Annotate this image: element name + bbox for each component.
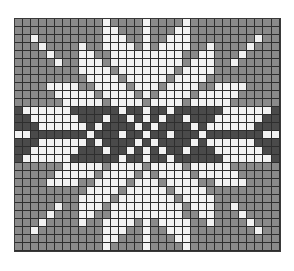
- chart-cell-background: [95, 219, 103, 227]
- chart-cell-background: [223, 187, 231, 195]
- chart-cell-background: [223, 51, 231, 59]
- chart-cell-background: [151, 27, 159, 35]
- chart-cell-band: [183, 123, 191, 131]
- chart-cell-star: [135, 67, 143, 75]
- chart-cell-star: [159, 75, 167, 83]
- chart-cell-star: [239, 147, 247, 155]
- chart-cell-star: [135, 195, 143, 203]
- chart-cell-background: [183, 99, 191, 107]
- chart-cell-background: [95, 51, 103, 59]
- chart-cell-background: [23, 83, 31, 91]
- chart-cell-background: [47, 171, 55, 179]
- chart-cell-background: [47, 203, 55, 211]
- chart-cell-band: [255, 131, 263, 139]
- chart-cell-star: [143, 43, 151, 51]
- chart-cell-background: [151, 227, 159, 235]
- chart-cell-background: [55, 43, 63, 51]
- chart-cell-background: [183, 51, 191, 59]
- chart-cell-star: [151, 211, 159, 219]
- chart-cell-star: [183, 235, 191, 243]
- chart-cell-star: [223, 139, 231, 147]
- chart-cell-star: [79, 139, 87, 147]
- chart-cell-background: [207, 75, 215, 83]
- chart-cell-star: [239, 139, 247, 147]
- chart-cell-star: [47, 211, 55, 219]
- chart-cell-background: [135, 227, 143, 235]
- chart-cell-background: [55, 187, 63, 195]
- chart-cell-star: [79, 43, 87, 51]
- chart-cell-star: [63, 91, 71, 99]
- chart-cell-star: [183, 83, 191, 91]
- chart-cell-background: [215, 59, 223, 67]
- chart-cell-star: [223, 147, 231, 155]
- chart-cell-band: [135, 131, 143, 139]
- chart-cell-star: [79, 123, 87, 131]
- chart-cell-background: [39, 243, 47, 251]
- chart-cell-star: [119, 179, 127, 187]
- chart-cell-background: [47, 163, 55, 171]
- chart-cell-band: [191, 147, 199, 155]
- chart-cell-background: [39, 211, 47, 219]
- chart-cell-star: [127, 59, 135, 67]
- chart-cell-star: [135, 187, 143, 195]
- chart-cell-background: [31, 243, 39, 251]
- chart-cell-band: [79, 131, 87, 139]
- chart-cell-star: [175, 163, 183, 171]
- chart-cell-background: [263, 235, 271, 243]
- chart-cell-background: [95, 171, 103, 179]
- chart-cell-background: [167, 243, 175, 251]
- chart-cell-background: [191, 235, 199, 243]
- chart-cell-star: [143, 203, 151, 211]
- chart-cell-star: [87, 59, 95, 67]
- chart-cell-star: [119, 91, 127, 99]
- chart-cell-star: [231, 179, 239, 187]
- chart-cell-star: [63, 107, 71, 115]
- chart-cell-background: [231, 35, 239, 43]
- chart-cell-background: [15, 179, 23, 187]
- chart-cell-star: [103, 115, 111, 123]
- chart-cell-background: [87, 179, 95, 187]
- chart-cell-background: [127, 19, 135, 27]
- chart-cell-star: [263, 107, 271, 115]
- chart-cell-background: [15, 171, 23, 179]
- chart-cell-star: [159, 99, 167, 107]
- chart-cell-star: [199, 59, 207, 67]
- chart-cell-background: [135, 27, 143, 35]
- chart-cell-star: [135, 123, 143, 131]
- chart-cell-background: [15, 187, 23, 195]
- chart-cell-star: [47, 139, 55, 147]
- chart-cell-background: [159, 83, 167, 91]
- chart-cell-background: [159, 179, 167, 187]
- chart-cell-star: [111, 235, 119, 243]
- chart-cell-star: [87, 163, 95, 171]
- chart-cell-background: [215, 219, 223, 227]
- chart-cell-background: [223, 227, 231, 235]
- chart-cell-background: [272, 35, 280, 43]
- chart-cell-background: [39, 59, 47, 67]
- chart-cell-background: [47, 43, 55, 51]
- chart-cell-background: [15, 91, 23, 99]
- chart-cell-band: [199, 139, 207, 147]
- chart-cell-star: [119, 155, 127, 163]
- chart-cell-band: [207, 155, 215, 163]
- chart-cell-band: [272, 147, 280, 155]
- chart-cell-background: [39, 179, 47, 187]
- chart-cell-star: [159, 211, 167, 219]
- chart-cell-background: [15, 19, 23, 27]
- chart-cell-star: [191, 139, 199, 147]
- chart-cell-star: [103, 19, 111, 27]
- chart-cell-background: [255, 19, 263, 27]
- chart-cell-star: [255, 115, 263, 123]
- chart-cell-background: [79, 19, 87, 27]
- chart-cell-background: [31, 19, 39, 27]
- chart-cell-star: [103, 43, 111, 51]
- chart-cell-star: [87, 211, 95, 219]
- chart-cell-star: [127, 91, 135, 99]
- chart-cell-star: [111, 91, 119, 99]
- chart-cell-band: [199, 123, 207, 131]
- chart-cell-background: [151, 35, 159, 43]
- chart-cell-background: [111, 195, 119, 203]
- chart-cell-star: [183, 75, 191, 83]
- chart-cell-background: [263, 51, 271, 59]
- chart-cell-background: [71, 187, 79, 195]
